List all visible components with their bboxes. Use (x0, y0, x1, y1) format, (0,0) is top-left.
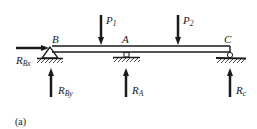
load-p2-arrow (175, 15, 181, 45)
reaction-ra-arrow (123, 68, 129, 97)
label-p1: P1 (105, 14, 116, 28)
reaction-rc-arrow (227, 68, 233, 97)
label-ra: RA (131, 84, 144, 98)
label-point-b: B (52, 33, 59, 45)
reaction-rby-arrow (48, 68, 54, 97)
figure-caption: (a) (15, 116, 26, 128)
beam (52, 46, 230, 52)
label-rc: Rc (235, 84, 247, 98)
pin-support-b (37, 47, 63, 63)
roller-support-c (216, 52, 246, 63)
reaction-rbx-arrow (16, 45, 49, 51)
beam-diagram: B A C P1 P2 RBx RBy RA Rc (a) (0, 0, 257, 129)
label-rbx: RBx (15, 54, 31, 68)
label-p2: P2 (182, 14, 194, 28)
label-rby: RBy (57, 84, 73, 98)
load-p1-arrow (98, 15, 104, 45)
label-point-c: C (224, 33, 232, 45)
roller-support-a (113, 53, 140, 63)
label-point-a: A (121, 33, 129, 45)
